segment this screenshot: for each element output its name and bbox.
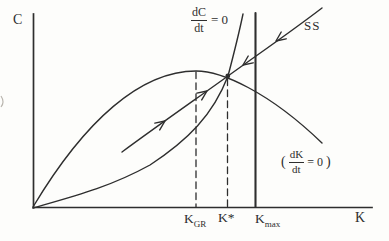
tick-label-kmax: Kmax (255, 212, 280, 226)
axes (34, 14, 373, 208)
close-paren: ) (326, 155, 331, 169)
dc-fraction: dC dt (191, 6, 207, 34)
dc-zero-curve (33, 14, 243, 208)
dk-zero-curve (33, 71, 322, 207)
diagram-canvas (0, 0, 389, 241)
open-paren: ( (281, 155, 286, 169)
dc-denominator: dt (194, 21, 203, 34)
page-edge-artifact (1, 96, 3, 107)
dk-equals-zero: = 0 (307, 156, 323, 168)
dk-zero-locus-label: ( dK dt = 0 ) (281, 149, 331, 175)
dc-zero-locus-label: dC dt = 0 (191, 6, 228, 34)
tick-label-kgr: KGR (184, 212, 206, 226)
kmax-subscript: max (265, 219, 281, 229)
x-axis-label: K (355, 211, 365, 225)
dc-numerator: dC (191, 6, 207, 21)
phase-diagram: C dC dt = 0 SS ( dK dt = 0 ) KGR K* Kmax… (0, 0, 389, 241)
tick-label-kstar: K* (218, 211, 235, 225)
dk-denominator: dt (292, 163, 301, 175)
kmax-base: K (255, 211, 265, 226)
kgr-base: K (184, 211, 194, 226)
dc-equals-zero: = 0 (211, 13, 228, 26)
dk-numerator: dK (289, 149, 304, 163)
dk-fraction: dK dt (289, 149, 304, 175)
equilibrium-point (225, 74, 230, 79)
saddle-path-label: SS (304, 19, 320, 32)
y-axis-label: C (13, 13, 22, 27)
curves (33, 8, 322, 208)
kgr-subscript: GR (194, 219, 207, 229)
